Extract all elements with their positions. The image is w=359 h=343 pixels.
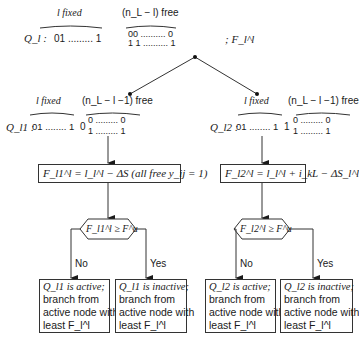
right-fixed-bits: 01 ........ 1 <box>236 121 278 133</box>
root-free-bits-bottom: 1 1 .......... 1 <box>128 37 176 49</box>
left-decision-text: F_l1^l ≥ F^u <box>86 223 138 235</box>
left-yes-outcome-box: Q_l1 is inactive; branch from active nod… <box>115 279 187 333</box>
right-equation-box: F_l2^l = l_l^l + i_kL − ΔS_l^l <box>220 164 306 183</box>
outcome-line: branch from <box>40 293 109 306</box>
right-free-label: (n_L − l −1) free <box>288 95 359 107</box>
right-node-label: Q_l2 : <box>210 121 238 133</box>
outcome-line: active node with <box>40 306 109 319</box>
left-free-bits-bottom: 1 ......... 1 <box>88 125 126 137</box>
left-no-label: No <box>75 258 88 270</box>
root-bound-label: ; F_l^l <box>225 33 254 45</box>
outcome-line: least F_l^l <box>40 319 109 332</box>
tree-edge-right <box>195 57 257 94</box>
root-fixed-label: l fixed <box>57 7 82 19</box>
right-no-path <box>234 229 236 278</box>
root-free-label: (n_L − l) free <box>122 7 179 19</box>
right-fixed-label: l fixed <box>244 95 269 107</box>
right-no-label: No <box>240 258 253 270</box>
outcome-line: active node with <box>116 306 186 319</box>
right-yes-path <box>290 229 313 278</box>
right-no-outcome-box: Q_l2 is active; branch from active node … <box>205 279 276 333</box>
right-yes-label: Yes <box>317 258 333 270</box>
left-equation: F_l1^l = l_l^l − ΔS (all free y_ij = 1) <box>43 167 207 179</box>
outcome-line: active node with <box>281 306 352 319</box>
outcome-line: branch from <box>281 293 352 306</box>
overbrace-fixed-left <box>30 113 74 115</box>
outcome-line: branch from <box>206 293 275 306</box>
outcome-line: Q_l2 is active; <box>206 280 275 293</box>
outcome-line: least F_l^l <box>206 319 275 332</box>
outcome-line: Q_l2 is inactive; <box>281 280 352 293</box>
root-node-label: Q_l : <box>24 32 47 44</box>
left-branch-bit: 0 <box>80 121 86 133</box>
right-free-bits-bottom: 1 ......... 1 <box>293 125 331 137</box>
left-no-outcome-box: Q_l1 is active; branch from active node … <box>39 279 110 333</box>
outcome-line: active node with <box>206 306 275 319</box>
left-free-label: (n_L − l −1) free <box>82 95 153 107</box>
left-fixed-bits: 01 ........ 1 <box>32 121 74 133</box>
outcome-line: least F_l^l <box>116 319 186 332</box>
outcome-line: least F_l^l <box>281 319 352 332</box>
right-equation: F_l2^l = l_l^l + i_kL − ΔS_l^l <box>225 167 359 179</box>
left-yes-path <box>136 229 146 278</box>
right-branch-bit: 1 <box>284 121 290 133</box>
left-yes-label: Yes <box>150 258 166 270</box>
outcome-line: Q_l1 is inactive; <box>116 280 186 293</box>
outcome-line: Q_l1 is active; <box>40 280 109 293</box>
overbrace-fixed-right <box>238 113 282 115</box>
left-fixed-label: l fixed <box>36 95 61 107</box>
left-no-path <box>71 229 80 278</box>
root-node-dot <box>193 55 197 59</box>
root-fixed-bits: 01 ......... 1 <box>54 33 101 45</box>
outcome-line: branch from <box>116 293 186 306</box>
overbrace-fixed-root <box>40 26 102 28</box>
tree-edge-left <box>130 57 195 94</box>
left-equation-box: F_l1^l = l_l^l − ΔS (all free y_ij = 1) <box>38 164 181 183</box>
left-node-label: Q_l1 : <box>6 121 34 133</box>
right-decision-text: F_l2^l ≥ F^u <box>240 223 292 235</box>
right-yes-outcome-box: Q_l2 is inactive; branch from active nod… <box>280 279 353 333</box>
